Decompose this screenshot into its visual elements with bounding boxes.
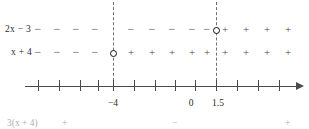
- axis-tick-1: [59, 80, 60, 91]
- sign-glyph-row0-1: −: [52, 24, 62, 35]
- open-circle-zero-minus4: [110, 50, 117, 57]
- sign-glyph-row0-0: −: [33, 24, 43, 35]
- clipped-bottom-row: 3(x + 4) + − +: [0, 118, 309, 129]
- guide-line-minus4: [113, 2, 114, 86]
- axis-tick-2: [80, 80, 81, 91]
- sign-glyph-row1-10: +: [241, 47, 251, 58]
- sign-chart-figure: 2x − 3 x + 4 −−−−−−−−−++++ −−−−+++++++++…: [0, 0, 309, 129]
- axis-tick-6: [155, 80, 156, 91]
- guide-line-1point5: [216, 2, 217, 86]
- axis-label-1: 0: [189, 98, 194, 108]
- bottom-row-label: 3(x + 4): [7, 118, 38, 128]
- sign-glyph-row0-7: −: [187, 24, 197, 35]
- sign-glyph-row0-10: +: [241, 24, 251, 35]
- sign-glyph-row0-12: +: [283, 24, 293, 35]
- row-label-x-plus-4: x + 4: [11, 47, 32, 57]
- sign-glyph-row1-1: −: [52, 47, 62, 58]
- number-line-axis: [25, 86, 297, 87]
- open-circle-zero-1point5: [213, 27, 220, 34]
- axis-tick-4: [113, 80, 114, 91]
- axis-tick-9: [216, 80, 217, 91]
- axis-arrow-right-icon: [296, 82, 304, 90]
- axis-tick-10: [237, 80, 238, 91]
- sign-glyph-row1-3: −: [90, 47, 100, 58]
- sign-glyph-row1-4: +: [126, 47, 136, 58]
- sign-glyph-row0-6: −: [167, 24, 177, 35]
- row-label-2x-minus-3: 2x − 3: [5, 24, 31, 34]
- sign-glyph-row0-8: −: [202, 24, 212, 35]
- axis-tick-11: [258, 80, 259, 91]
- sign-glyph-row0-11: +: [262, 24, 272, 35]
- bottom-row-sign-1: +: [62, 118, 67, 128]
- sign-glyph-row1-0: −: [33, 47, 43, 58]
- axis-tick-12: [279, 80, 280, 91]
- axis-label-2: 1.5: [212, 98, 224, 108]
- axis-tick-5: [134, 80, 135, 91]
- axis-tick-7: [175, 80, 176, 91]
- axis-tick-0: [38, 80, 39, 91]
- sign-glyph-row1-11: +: [262, 47, 272, 58]
- sign-glyph-row0-3: −: [90, 24, 100, 35]
- sign-glyph-row1-7: +: [187, 47, 197, 58]
- sign-glyph-row0-9: +: [220, 24, 230, 35]
- sign-glyph-row1-12: +: [283, 47, 293, 58]
- axis-label-0: −4: [108, 98, 118, 108]
- sign-glyph-row0-2: −: [71, 24, 81, 35]
- sign-glyph-row1-8: +: [202, 47, 212, 58]
- axis-tick-3: [98, 80, 99, 91]
- sign-glyph-row0-4: −: [126, 24, 136, 35]
- bottom-row-sign-3: +: [285, 118, 290, 128]
- sign-glyph-row1-6: +: [167, 47, 177, 58]
- bottom-row-sign-2: −: [172, 118, 177, 128]
- sign-glyph-row1-5: +: [147, 47, 157, 58]
- sign-glyph-row1-9: +: [220, 47, 230, 58]
- sign-glyph-row1-2: −: [71, 47, 81, 58]
- sign-glyph-row0-5: −: [147, 24, 157, 35]
- axis-tick-8: [195, 80, 196, 91]
